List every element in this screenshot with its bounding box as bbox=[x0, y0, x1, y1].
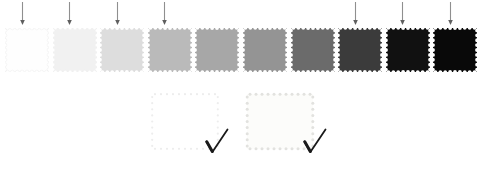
arrow-pointer-7 bbox=[446, 2, 455, 26]
swatch-3[interactable] bbox=[100, 28, 144, 72]
swatch-4[interactable] bbox=[148, 28, 192, 72]
swatch-7[interactable] bbox=[291, 28, 335, 72]
swatch-5[interactable] bbox=[195, 28, 239, 72]
swatch-8[interactable] bbox=[338, 28, 382, 72]
arrow-pointer-6 bbox=[398, 2, 407, 26]
arrow-pointer-4 bbox=[160, 2, 169, 26]
arrow-row bbox=[0, 0, 488, 28]
greyscale-swatch-strip bbox=[0, 28, 488, 74]
swatch-6[interactable] bbox=[243, 28, 287, 72]
swatch-10[interactable] bbox=[433, 28, 477, 72]
swatch-1[interactable] bbox=[5, 28, 49, 72]
sample-comparison-row: 纯白色 乳白色 bbox=[0, 85, 488, 191]
arrow-pointer-3 bbox=[113, 2, 122, 26]
checkmark-icon-pure-white[interactable] bbox=[205, 128, 229, 154]
checkmark-icon-milky-white[interactable] bbox=[303, 128, 327, 154]
swatch-comparison-figure: 纯白色 乳白色 bbox=[0, 0, 488, 191]
swatch-2[interactable] bbox=[53, 28, 97, 72]
arrow-pointer-2 bbox=[65, 2, 74, 26]
arrow-pointer-5 bbox=[351, 2, 360, 26]
arrow-pointer-1 bbox=[18, 2, 27, 26]
swatch-9[interactable] bbox=[386, 28, 430, 72]
